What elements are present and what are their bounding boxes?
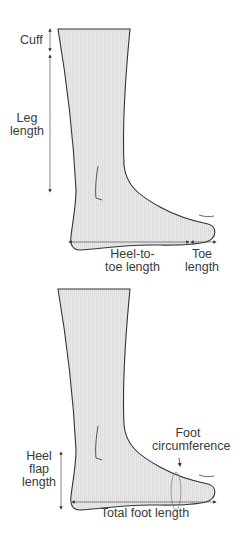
toe-crease-1 bbox=[199, 215, 214, 217]
heel-to-toe-label: Heel-to- toe length bbox=[100, 248, 165, 274]
heel-flap-line3: length bbox=[22, 476, 56, 489]
heel-flap-label: Heel flap length bbox=[22, 450, 56, 489]
toe-crease-2 bbox=[199, 475, 214, 477]
sock-1-outline bbox=[58, 29, 215, 250]
foot-circumference-label: Foot circumference bbox=[152, 427, 224, 453]
toe-length-label: Toe length bbox=[185, 248, 219, 274]
heel-to-toe-line2: toe length bbox=[100, 261, 165, 274]
total-foot-length-label: Total foot length bbox=[95, 507, 195, 520]
sock-2 bbox=[58, 289, 215, 510]
cuff-label: Cuff bbox=[20, 34, 43, 47]
foot-circ-pointer bbox=[179, 458, 180, 465]
leg-length-line2: length bbox=[10, 125, 44, 138]
toe-length-line2: length bbox=[185, 261, 219, 274]
sock-1 bbox=[58, 29, 215, 250]
sock-2-outline bbox=[58, 289, 215, 510]
foot-circ-line2: circumference bbox=[152, 440, 224, 453]
leg-length-label: Leg length bbox=[10, 112, 44, 138]
